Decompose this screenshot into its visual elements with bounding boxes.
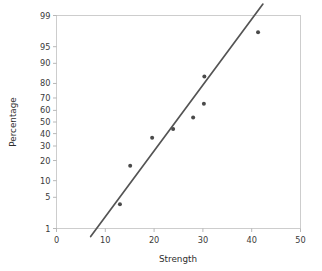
y-tick-label: 40 — [40, 129, 50, 139]
y-tick-label: 95 — [40, 42, 50, 52]
data-point — [150, 136, 154, 140]
x-tick-label: 10 — [100, 235, 110, 245]
data-point — [171, 127, 175, 131]
y-axis-title: Percentage — [8, 97, 18, 147]
y-tick-label: 1 — [45, 224, 50, 234]
x-tick-label: 0 — [54, 235, 59, 245]
y-tick-label: 5 — [45, 192, 50, 202]
x-tick-label: 30 — [198, 235, 208, 245]
y-tick-label: 30 — [40, 141, 50, 151]
x-tick-label: 40 — [246, 235, 256, 245]
y-tick-label: 60 — [40, 105, 50, 115]
data-point — [202, 102, 206, 106]
y-tick-label: 70 — [40, 93, 50, 103]
data-point — [256, 30, 260, 34]
y-tick-label: 50 — [40, 117, 50, 127]
y-tick-label: 90 — [40, 58, 50, 68]
plot-canvas: 01020304050 151020304050607080909599 Str… — [0, 0, 322, 271]
x-axis-title: Strength — [159, 254, 197, 264]
x-tick-label: 20 — [149, 235, 159, 245]
y-tick-label: 20 — [40, 156, 50, 166]
data-point — [128, 164, 132, 168]
y-tick-label: 10 — [40, 176, 50, 186]
x-tick-label: 50 — [295, 235, 305, 245]
data-point — [191, 115, 195, 119]
data-point — [118, 202, 122, 206]
data-point — [202, 74, 206, 78]
probability-plot-figure: 01020304050 151020304050607080909599 Str… — [0, 0, 322, 271]
y-tick-label: 80 — [40, 78, 50, 88]
y-tick-label: 99 — [40, 11, 50, 21]
